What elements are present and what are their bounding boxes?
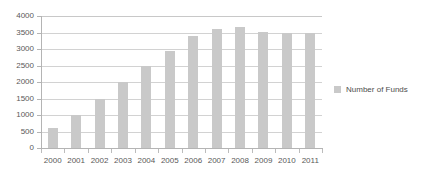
gridline (41, 99, 322, 100)
bar (165, 51, 175, 148)
y-tick-label: 0 (0, 144, 34, 152)
bar (258, 32, 268, 148)
y-tick-label: 3500 (0, 29, 34, 37)
y-tick-label: 2000 (0, 78, 34, 86)
gridline (41, 16, 322, 17)
legend-swatch-icon (334, 86, 341, 93)
x-tick-mark (111, 149, 112, 153)
x-tick-mark (135, 149, 136, 153)
y-tick-mark (37, 115, 41, 116)
bar (212, 29, 222, 148)
bar (305, 33, 315, 149)
y-tick-mark (37, 66, 41, 67)
x-tick-mark (205, 149, 206, 153)
x-tick-mark (88, 149, 89, 153)
gridline (41, 33, 322, 34)
bar (95, 99, 105, 149)
y-tick-mark (37, 99, 41, 100)
y-axis-line (41, 16, 42, 149)
x-tick-label: 2011 (290, 156, 330, 165)
y-tick-mark (37, 33, 41, 34)
y-tick-mark (37, 49, 41, 50)
bar (235, 27, 245, 148)
x-tick-mark (41, 149, 42, 153)
bar-chart: 05001000150020002500300035004000 2000200… (0, 0, 426, 182)
x-tick-mark (64, 149, 65, 153)
plot-area (41, 16, 322, 148)
gridline (41, 132, 322, 133)
x-tick-mark (252, 149, 253, 153)
y-tick-label: 3000 (0, 45, 34, 53)
x-tick-mark (322, 149, 323, 153)
x-tick-mark (182, 149, 183, 153)
bar (71, 115, 81, 148)
y-tick-label: 1000 (0, 111, 34, 119)
x-tick-mark (158, 149, 159, 153)
bar (141, 66, 151, 149)
x-tick-mark (228, 149, 229, 153)
gridline (41, 49, 322, 50)
y-tick-label: 4000 (0, 12, 34, 20)
bar (118, 82, 128, 148)
gridline (41, 66, 322, 67)
x-tick-mark (275, 149, 276, 153)
y-tick-mark (37, 132, 41, 133)
y-tick-label: 2500 (0, 62, 34, 70)
y-tick-label: 1500 (0, 95, 34, 103)
bar (282, 33, 292, 149)
bar (188, 36, 198, 148)
gridline (41, 82, 322, 83)
chart-legend: Number of Funds (334, 85, 408, 94)
bar (48, 128, 58, 148)
y-tick-mark (37, 16, 41, 17)
legend-label: Number of Funds (346, 85, 408, 94)
gridline (41, 115, 322, 116)
y-tick-label: 500 (0, 128, 34, 136)
x-tick-mark (299, 149, 300, 153)
y-tick-mark (37, 82, 41, 83)
